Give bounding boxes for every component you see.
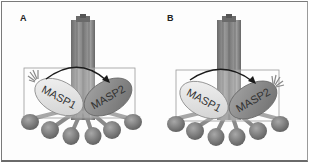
- mbl-masp-complex-diagram-b: MASP1 MASP2: [152, 0, 307, 166]
- panel-b: B: [152, 0, 307, 166]
- panel-a: A: [0, 0, 155, 166]
- mbl-masp-complex-diagram-a: MASP1 MASP2: [0, 0, 155, 166]
